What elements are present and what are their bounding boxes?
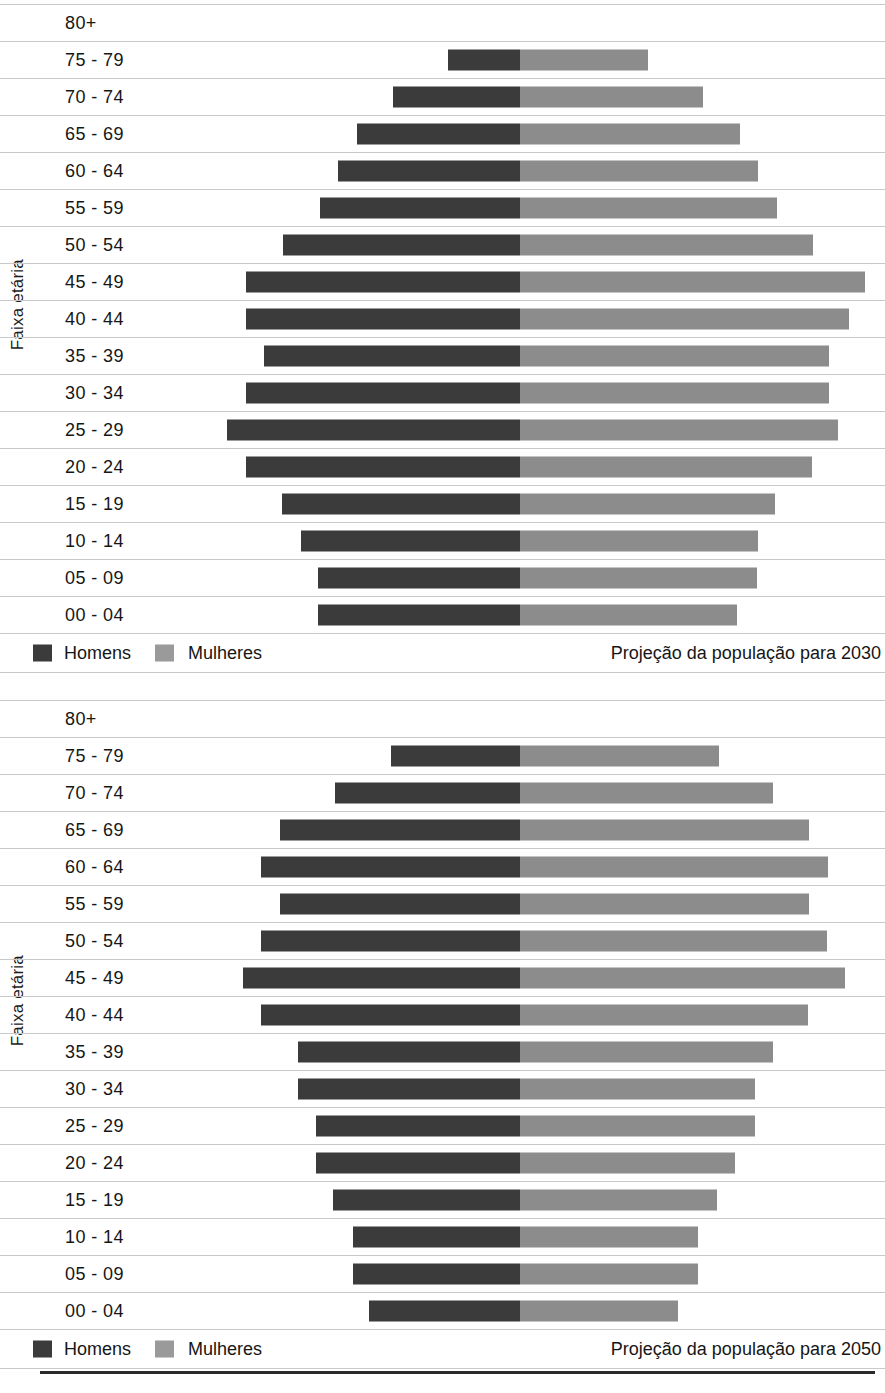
age-row: 35 - 39 (0, 337, 885, 374)
bar-homens (280, 820, 520, 841)
bar-mulheres (520, 931, 827, 952)
age-row: 20 - 24 (0, 1144, 885, 1181)
age-row: 60 - 64 (0, 152, 885, 189)
age-row: 25 - 29 (0, 411, 885, 448)
bar-homens (227, 420, 520, 441)
legend-swatch-mulheres-icon (155, 645, 174, 662)
age-row: 40 - 44 (0, 996, 885, 1033)
age-group-label: 70 - 74 (65, 783, 124, 804)
age-row: 70 - 74 (0, 774, 885, 811)
age-row: 00 - 04 (0, 1292, 885, 1329)
bar-mulheres (520, 1005, 808, 1026)
population-pyramid-page: Faixa etária 80+75 - 7970 - 7465 - 6960 … (0, 0, 885, 1393)
age-group-label: 55 - 59 (65, 894, 124, 915)
age-group-label: 20 - 24 (65, 1153, 124, 1174)
age-group-label: 45 - 49 (65, 968, 124, 989)
chart-2050-rows: 80+75 - 7970 - 7465 - 6960 - 6455 - 5950… (0, 700, 885, 1329)
bar-homens (246, 309, 520, 330)
age-group-label: 80+ (65, 709, 97, 730)
bar-homens (246, 383, 520, 404)
bar-homens (246, 272, 520, 293)
age-group-label: 80+ (65, 13, 97, 34)
bar-mulheres (520, 1190, 717, 1211)
bar-mulheres (520, 383, 829, 404)
bar-mulheres (520, 1116, 755, 1137)
bar-mulheres (520, 531, 758, 552)
bottom-rule (40, 1371, 875, 1374)
age-row: 65 - 69 (0, 811, 885, 848)
bar-homens (243, 968, 520, 989)
bar-mulheres (520, 783, 773, 804)
bar-mulheres (520, 1079, 755, 1100)
bar-homens (448, 50, 520, 71)
age-group-label: 75 - 79 (65, 746, 124, 767)
age-group-label: 50 - 54 (65, 931, 124, 952)
bar-mulheres (520, 894, 809, 915)
age-row: 05 - 09 (0, 559, 885, 596)
bar-mulheres (520, 746, 719, 767)
age-group-label: 40 - 44 (65, 1005, 124, 1026)
age-group-label: 60 - 64 (65, 857, 124, 878)
bar-mulheres (520, 272, 865, 293)
chart-2030-legend: Homens Mulheres Projeção da população pa… (0, 633, 885, 673)
age-group-label: 00 - 04 (65, 1301, 124, 1322)
bar-homens (282, 494, 520, 515)
bar-mulheres (520, 420, 838, 441)
bar-mulheres (520, 309, 849, 330)
age-row: 10 - 14 (0, 522, 885, 559)
age-group-label: 05 - 09 (65, 568, 124, 589)
age-group-label: 10 - 14 (65, 531, 124, 552)
bar-homens (261, 931, 520, 952)
bar-homens (298, 1079, 520, 1100)
bar-mulheres (520, 1227, 698, 1248)
legend-swatch-homens-icon (33, 645, 52, 662)
age-row: 60 - 64 (0, 848, 885, 885)
bar-mulheres (520, 457, 812, 478)
chart-2050-legend: Homens Mulheres Projeção da população pa… (0, 1329, 885, 1369)
bar-mulheres (520, 50, 648, 71)
bar-mulheres (520, 161, 758, 182)
age-row: 10 - 14 (0, 1218, 885, 1255)
age-row: 75 - 79 (0, 41, 885, 78)
bar-mulheres (520, 820, 809, 841)
bar-mulheres (520, 235, 813, 256)
age-group-label: 75 - 79 (65, 50, 124, 71)
age-row: 30 - 34 (0, 374, 885, 411)
bar-mulheres (520, 1264, 698, 1285)
bar-homens (283, 235, 520, 256)
bar-mulheres (520, 568, 757, 589)
bar-homens (318, 568, 520, 589)
age-group-label: 30 - 34 (65, 1079, 124, 1100)
bar-homens (357, 124, 520, 145)
age-group-label: 60 - 64 (65, 161, 124, 182)
bar-homens (369, 1301, 520, 1322)
age-group-label: 65 - 69 (65, 820, 124, 841)
age-row: 80+ (0, 700, 885, 737)
bar-mulheres (520, 87, 703, 108)
age-group-label: 00 - 04 (65, 605, 124, 626)
bar-homens (335, 783, 520, 804)
bar-homens (298, 1042, 520, 1063)
bar-homens (338, 161, 520, 182)
age-group-label: 55 - 59 (65, 198, 124, 219)
bar-homens (393, 87, 520, 108)
age-group-label: 30 - 34 (65, 383, 124, 404)
age-row: 45 - 49 (0, 263, 885, 300)
age-row: 15 - 19 (0, 485, 885, 522)
age-row: 55 - 59 (0, 885, 885, 922)
bar-homens (246, 457, 520, 478)
age-group-label: 15 - 19 (65, 494, 124, 515)
age-row: 80+ (0, 4, 885, 41)
chart-2050: Faixa etária 80+75 - 7970 - 7465 - 6960 … (0, 700, 885, 1369)
chart-2050-caption: Projeção da população para 2050 (611, 1339, 881, 1360)
chart-2030-caption: Projeção da população para 2030 (611, 643, 881, 664)
bar-mulheres (520, 1301, 678, 1322)
age-row: 20 - 24 (0, 448, 885, 485)
age-group-label: 15 - 19 (65, 1190, 124, 1211)
age-group-label: 25 - 29 (65, 1116, 124, 1137)
age-row: 00 - 04 (0, 596, 885, 633)
bar-mulheres (520, 968, 845, 989)
bar-homens (280, 894, 520, 915)
age-group-label: 70 - 74 (65, 87, 124, 108)
age-row: 50 - 54 (0, 226, 885, 263)
